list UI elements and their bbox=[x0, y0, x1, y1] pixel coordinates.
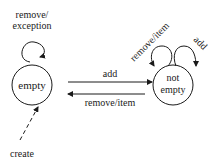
label-loop-add: add bbox=[192, 34, 210, 52]
transition-not-empty-add-loop: add bbox=[174, 34, 209, 66]
label-add: add bbox=[103, 68, 117, 79]
transition-empty-self-loop: remove/ exception bbox=[13, 9, 52, 62]
transition-add: add bbox=[68, 68, 152, 82]
label-loop-remove-item: remove/item bbox=[128, 20, 172, 64]
state-not-empty: not empty bbox=[153, 65, 193, 105]
state-not-empty-label-1: not bbox=[167, 72, 180, 83]
transition-create: create bbox=[10, 107, 38, 159]
state-not-empty-label-2: empty bbox=[161, 84, 186, 95]
state-diagram: empty not empty remove/ exception add re… bbox=[0, 0, 215, 165]
transition-not-empty-remove-loop: remove/item bbox=[128, 20, 172, 66]
label-create: create bbox=[10, 148, 34, 159]
state-empty: empty bbox=[12, 65, 52, 105]
label-remove-item: remove/item bbox=[85, 97, 136, 108]
transition-remove-item: remove/item bbox=[68, 94, 145, 108]
label-remove-exception-2: exception bbox=[13, 20, 52, 31]
label-remove-exception-1: remove/ bbox=[16, 9, 49, 20]
state-empty-label: empty bbox=[18, 79, 46, 91]
